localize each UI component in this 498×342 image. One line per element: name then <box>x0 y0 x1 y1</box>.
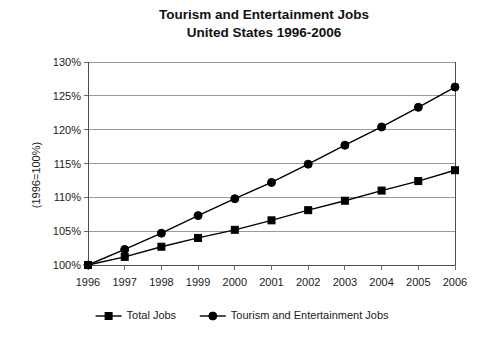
data-point-marker <box>378 123 386 131</box>
x-axis-tick-label: 2000 <box>223 276 247 288</box>
data-point-marker <box>194 212 202 220</box>
x-axis-tick-label: 2005 <box>406 276 430 288</box>
chart-container: Tourism and Entertainment Jobs United St… <box>0 0 498 342</box>
tourism-jobs-line-chart: Tourism and Entertainment Jobs United St… <box>0 0 498 342</box>
y-axis-tick-labels: 100%105%110%115%120%125%130% <box>53 56 81 271</box>
y-axis-tick-label: 120% <box>53 124 81 136</box>
data-point-marker <box>158 243 165 250</box>
y-axis-tick-label: 100% <box>53 259 81 271</box>
data-point-marker <box>231 195 239 203</box>
legend-label-1: Total Jobs <box>127 309 177 321</box>
x-axis-tick-label: 1996 <box>76 276 100 288</box>
x-axis-tick-label: 2004 <box>369 276 393 288</box>
x-axis-tick-label: 1997 <box>112 276 136 288</box>
data-point-marker <box>268 217 275 224</box>
data-point-marker <box>452 167 459 174</box>
chart-subtitle: United States 1996-2006 <box>187 25 342 40</box>
y-axis-tick-label: 115% <box>54 158 82 170</box>
x-axis-tickmarks <box>88 265 455 270</box>
y-axis-tick-label: 130% <box>53 56 81 68</box>
x-axis-tick-label: 2001 <box>259 276 283 288</box>
data-point-marker <box>451 83 459 91</box>
x-axis-tick-label: 1998 <box>149 276 173 288</box>
y-axis-tick-label: 125% <box>53 90 81 102</box>
chart-title: Tourism and Entertainment Jobs <box>159 7 369 22</box>
legend-marker-square <box>105 313 112 320</box>
data-series-layer <box>84 83 459 269</box>
y-axis-tick-label: 110% <box>54 191 82 203</box>
y-axis-title: (1996=100%) <box>30 142 42 208</box>
x-axis-tick-label: 2002 <box>296 276 320 288</box>
chart-legend: Total JobsTourism and Entertainment Jobs <box>96 309 389 321</box>
y-axis-title-group: (1996=100%) <box>30 142 42 208</box>
data-point-marker <box>341 141 349 149</box>
x-axis-tick-label: 1999 <box>186 276 210 288</box>
data-point-marker <box>378 187 385 194</box>
data-point-marker <box>231 226 238 233</box>
chart-title-group: Tourism and Entertainment Jobs United St… <box>159 7 369 40</box>
data-point-marker <box>121 245 129 253</box>
legend-label-2: Tourism and Entertainment Jobs <box>231 309 389 321</box>
data-point-marker <box>195 234 202 241</box>
data-point-marker <box>121 253 128 260</box>
data-point-marker <box>415 178 422 185</box>
x-axis-tick-label: 2003 <box>333 276 357 288</box>
data-point-marker <box>304 160 312 168</box>
data-point-marker <box>414 103 422 111</box>
series-line-2 <box>88 87 455 265</box>
legend-marker-circle <box>209 312 217 320</box>
data-point-marker <box>268 178 276 186</box>
data-point-marker <box>305 207 312 214</box>
x-axis-tick-labels: 1996199719981999200020012002200320042005… <box>76 276 467 288</box>
data-point-marker <box>84 261 92 269</box>
data-point-marker <box>157 229 165 237</box>
y-axis-tick-label: 105% <box>53 225 81 237</box>
data-point-marker <box>341 197 348 204</box>
x-axis-tick-label: 2006 <box>443 276 467 288</box>
gridlines-group <box>84 62 455 265</box>
